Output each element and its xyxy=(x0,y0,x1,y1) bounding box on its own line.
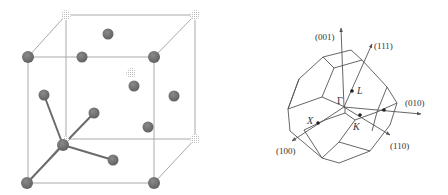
unit-cell-diagram xyxy=(0,0,224,195)
label-X: X xyxy=(306,115,314,126)
bottom-edge xyxy=(339,142,370,151)
back-corner-atoms xyxy=(61,10,200,144)
atom-back-top-left xyxy=(61,10,71,20)
atom-right-face-center xyxy=(169,91,180,102)
lower-right-edge xyxy=(322,120,355,158)
brillouin-zone-diagram: (001) (111) (010) (110) (100) Γ L X K xyxy=(224,0,448,195)
point-W-dot xyxy=(382,108,386,112)
point-K-dot xyxy=(358,113,362,117)
atom-interior-1 xyxy=(129,81,140,92)
atom-tetrahedral-center xyxy=(57,139,69,151)
label-111: (111) xyxy=(374,41,393,51)
atom-interior-2 xyxy=(143,122,154,133)
crystal-unit-cell-figure xyxy=(0,0,224,195)
left-middle-edge xyxy=(288,97,322,109)
atom-front-bottom-right xyxy=(148,177,160,189)
label-110: (110) xyxy=(390,141,409,151)
atom-top-front-edge xyxy=(77,52,88,63)
point-L-dot xyxy=(350,89,354,93)
atom-back-bottom-right xyxy=(190,134,200,144)
atom-face-center-back xyxy=(126,68,136,78)
atom-bond-neighbor-1 xyxy=(39,90,50,101)
brillouin-zone-figure: (001) (111) (010) (110) (100) Γ L X K xyxy=(224,0,448,195)
atom-front-bottom-left xyxy=(21,177,33,189)
label-K: K xyxy=(352,121,361,132)
atom-front-top-right xyxy=(148,51,160,63)
atom-back-top-right xyxy=(190,10,200,20)
label-010: (010) xyxy=(405,98,425,108)
left-face-edge xyxy=(288,79,299,109)
label-gamma: Γ xyxy=(337,95,343,106)
label-L: L xyxy=(356,85,363,96)
label-001: (001) xyxy=(315,32,335,42)
front-face xyxy=(28,57,154,183)
left-upper-edge xyxy=(322,68,334,97)
atom-front-top-left xyxy=(22,51,34,63)
atom-top-face-center xyxy=(103,29,114,40)
atom-bond-neighbor-2 xyxy=(89,108,100,119)
point-X-dot xyxy=(316,121,320,125)
axis-111 xyxy=(344,44,372,107)
atom-bond-neighbor-3 xyxy=(108,155,119,166)
label-100: (100) xyxy=(276,146,296,156)
lower-left-edge xyxy=(304,130,322,158)
